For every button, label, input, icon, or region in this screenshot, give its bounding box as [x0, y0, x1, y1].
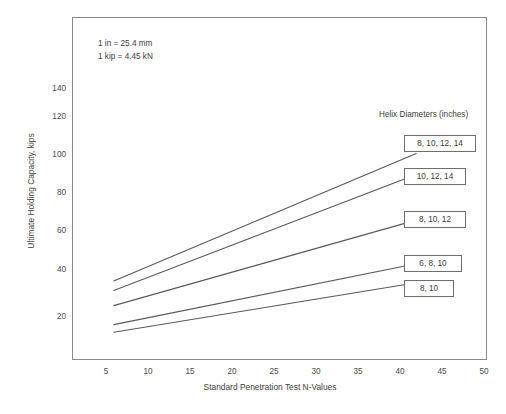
y-tick-80: 80 — [36, 188, 66, 197]
legend-title: Helix Diameters (inches) — [379, 110, 468, 119]
y-tick-140: 140 — [36, 84, 66, 93]
x-axis-title: Standard Penetration Test N-Values — [140, 382, 400, 392]
x-tick-30: 30 — [301, 367, 331, 376]
legend-item-1[interactable]: 10, 12, 14 — [404, 168, 466, 185]
x-tick-15: 15 — [175, 367, 205, 376]
unit-note-inch: 1 in = 25.4 mm — [98, 38, 153, 51]
chart-figure: 1 in = 25.4 mm 1 kip = 4.45 kN 140 120 1… — [0, 0, 506, 414]
y-tick-100: 100 — [36, 150, 66, 159]
x-tick-5: 5 — [91, 367, 121, 376]
x-tick-45: 45 — [427, 367, 457, 376]
unit-notes: 1 in = 25.4 mm 1 kip = 4.45 kN — [98, 38, 153, 63]
legend-item-2[interactable]: 8, 10, 12 — [404, 211, 466, 228]
y-tick-40: 40 — [36, 265, 66, 274]
x-tick-50: 50 — [469, 367, 499, 376]
y-tick-120: 120 — [36, 112, 66, 121]
y-tick-20: 20 — [36, 312, 66, 321]
plot-area — [72, 17, 487, 360]
x-tick-35: 35 — [343, 367, 373, 376]
x-tick-20: 20 — [217, 367, 247, 376]
y-tick-60: 60 — [36, 226, 66, 235]
legend-item-4[interactable]: 8, 10 — [404, 280, 454, 297]
x-tick-40: 40 — [385, 367, 415, 376]
y-axis-title: Ultimate Holding Capacity, kips — [26, 116, 36, 266]
legend-item-0[interactable]: 8, 10, 12, 14 — [404, 135, 476, 152]
legend-item-3[interactable]: 6, 8, 10 — [404, 255, 462, 272]
x-tick-25: 25 — [259, 367, 289, 376]
x-tick-10: 10 — [133, 367, 163, 376]
unit-note-kip: 1 kip = 4.45 kN — [98, 51, 153, 64]
